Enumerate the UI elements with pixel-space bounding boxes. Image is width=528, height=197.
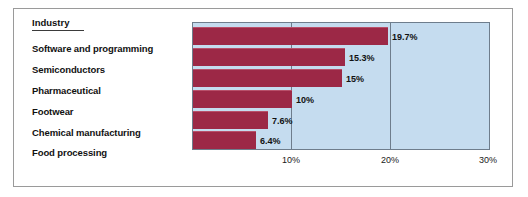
industry-header-underline [32, 30, 84, 31]
bar-value-semiconductors: 15.3% [349, 53, 375, 63]
xtick-label-30-percent: 30% [479, 155, 497, 165]
category-label-footwear: Footwear [32, 106, 188, 117]
xtick-label-10-percent: 10% [282, 155, 300, 165]
bar-value-chemical-manufacturing: 7.6% [272, 116, 293, 126]
bar-chemical-manufacturing [193, 111, 268, 129]
bar-software-and-programming [193, 27, 388, 45]
bar-pharmaceutical [193, 69, 342, 87]
bar-food-processing [193, 131, 256, 149]
category-label-pharmaceutical: Pharmaceutical [32, 85, 188, 96]
category-label-software-and-programming: Software and programming [32, 43, 188, 54]
plot-area: 19.7% 15.3% 15% 10% 7.6% 6.4% [192, 22, 490, 150]
xtick-label-20-percent: 20% [381, 155, 399, 165]
bar-semiconductors [193, 48, 345, 66]
bar-value-footwear: 10% [296, 95, 314, 105]
industry-column-header: Industry [32, 17, 69, 28]
chart-figure: Industry Software and programming Semico… [13, 8, 513, 187]
category-label-food-processing: Food processing [32, 147, 188, 158]
bar-value-food-processing: 6.4% [260, 136, 281, 146]
bar-value-pharmaceutical: 15% [346, 74, 364, 84]
bar-value-software-and-programming: 19.7% [392, 32, 418, 42]
category-label-column: Industry Software and programming Semico… [14, 9, 192, 186]
category-label-semiconductors: Semiconductors [32, 64, 188, 75]
bar-footwear [193, 90, 292, 108]
gridline-20-percent [390, 23, 391, 149]
category-label-chemical-manufacturing: Chemical manufacturing [32, 127, 188, 138]
